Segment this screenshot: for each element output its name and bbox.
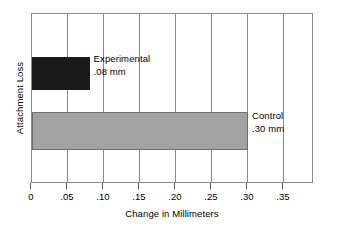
series-name: Experimental [94, 53, 151, 66]
series-label-experimental: Experimental.08 mm [94, 53, 151, 78]
gridline [247, 14, 248, 182]
gridline [67, 14, 68, 182]
series-value: .30 mm [252, 123, 284, 136]
x-tick-mark [174, 183, 175, 189]
gridline [211, 14, 212, 182]
bar-experimental [32, 57, 90, 90]
x-tick-mark [210, 183, 211, 189]
x-tick-label: .20 [160, 191, 190, 203]
y-axis-title: Attachment Loss [13, 13, 27, 183]
x-tick-label: .30 [232, 191, 262, 203]
bar-chart: Attachment Loss Change in Millimeters Ex… [0, 0, 337, 232]
gridline [175, 14, 176, 182]
plot-area [31, 13, 313, 183]
x-tick-label: 0 [16, 191, 46, 203]
x-tick-mark [102, 183, 103, 189]
x-tick-mark [282, 183, 283, 189]
x-axis-title: Change in Millimeters [31, 208, 313, 219]
bar-control [32, 112, 248, 150]
x-tick-label: .35 [268, 191, 298, 203]
series-name: Control [252, 110, 284, 123]
gridline [283, 14, 284, 182]
x-tick-mark [66, 183, 67, 189]
x-tick-mark [138, 183, 139, 189]
gridline [103, 14, 104, 182]
series-label-control: Control.30 mm [252, 110, 284, 135]
x-tick-label: .10 [88, 191, 118, 203]
series-value: .08 mm [94, 66, 151, 79]
x-tick-label: .15 [124, 191, 154, 203]
x-tick-label: .25 [196, 191, 226, 203]
x-tick-mark [30, 183, 31, 189]
x-tick-label: .05 [52, 191, 82, 203]
x-tick-mark [246, 183, 247, 189]
gridline [139, 14, 140, 182]
